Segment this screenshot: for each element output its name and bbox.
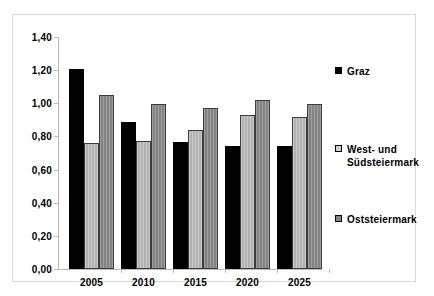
x-tick-mark xyxy=(225,269,226,273)
y-tick-mark xyxy=(54,37,58,38)
bar-group-2020 xyxy=(225,37,270,269)
y-tick-label: 1,40 xyxy=(32,32,52,43)
x-tick-label-2015: 2015 xyxy=(184,277,207,288)
y-axis-line xyxy=(58,37,59,270)
legend-swatch-icon xyxy=(335,215,342,222)
bar-group-2015 xyxy=(173,37,218,269)
bar-group-2025 xyxy=(277,37,322,269)
legend-entry-oststeiermark[interactable]: Oststeiermark xyxy=(335,213,417,226)
x-tick-label-2005: 2005 xyxy=(80,277,103,288)
bar-west-2015 xyxy=(188,130,203,269)
bar-ost-2020 xyxy=(255,100,270,269)
x-tick-mark xyxy=(121,269,122,273)
y-tick-mark xyxy=(54,170,58,171)
y-tick-mark xyxy=(54,269,58,270)
y-tick-label: 0,20 xyxy=(32,230,52,241)
x-tick-label-2010: 2010 xyxy=(132,277,155,288)
legend-label: Graz xyxy=(347,65,370,78)
x-axis-line xyxy=(58,269,322,270)
y-tick-mark xyxy=(54,203,58,204)
x-tick-label-2025: 2025 xyxy=(288,277,311,288)
x-tick-mark xyxy=(329,269,330,273)
bar-graz-2010 xyxy=(121,122,136,269)
y-tick-mark xyxy=(54,236,58,237)
legend-label: Oststeiermark xyxy=(347,213,417,226)
bar-west-2020 xyxy=(240,115,255,269)
bar-ost-2015 xyxy=(203,108,218,269)
x-tick-mark xyxy=(173,269,174,273)
y-tick-mark xyxy=(54,70,58,71)
bar-group-2005 xyxy=(69,37,114,269)
bar-graz-2025 xyxy=(277,146,292,269)
legend-label: West- undSüdsteiermark xyxy=(347,143,419,169)
x-tick-mark xyxy=(277,269,278,273)
bar-ost-2005 xyxy=(99,95,114,269)
y-tick-label: 1,20 xyxy=(32,65,52,76)
chart-frame: 0,000,200,400,600,801,001,201,40 2005201… xyxy=(12,14,416,282)
y-tick-label: 0,60 xyxy=(32,164,52,175)
legend-swatch-icon xyxy=(335,145,342,152)
legend-entry-graz[interactable]: Graz xyxy=(335,65,370,78)
y-tick-label: 0,00 xyxy=(32,264,52,275)
bar-ost-2025 xyxy=(307,104,322,269)
y-tick-label: 1,00 xyxy=(32,98,52,109)
bar-west-2005 xyxy=(84,143,99,269)
bar-graz-2005 xyxy=(69,69,84,270)
y-tick-label: 0,40 xyxy=(32,197,52,208)
legend-swatch-icon xyxy=(335,67,342,74)
bar-west-2025 xyxy=(292,117,307,269)
bar-graz-2015 xyxy=(173,142,188,269)
x-tick-label-2020: 2020 xyxy=(236,277,259,288)
plot-area: 0,000,200,400,600,801,001,201,40 2005201… xyxy=(58,37,313,270)
y-tick-mark xyxy=(54,136,58,137)
y-tick-mark xyxy=(54,103,58,104)
bar-west-2010 xyxy=(136,141,151,269)
bar-group-2010 xyxy=(121,37,166,269)
bar-graz-2020 xyxy=(225,146,240,269)
legend-entry-west-und-s-dsteiermark[interactable]: West- undSüdsteiermark xyxy=(335,143,419,169)
bar-ost-2010 xyxy=(151,104,166,269)
y-tick-label: 0,80 xyxy=(32,131,52,142)
